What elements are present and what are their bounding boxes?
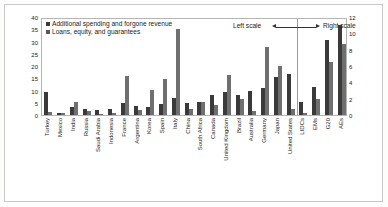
x-tick-label: South Africa (197, 118, 203, 150)
bar-loans (201, 102, 205, 115)
x-tick-label: Indonesia (108, 118, 114, 144)
legend-item-spending: Additional spending and forgone revenue (46, 20, 172, 28)
bar-loans (138, 110, 142, 115)
bar-loans (48, 112, 52, 115)
bar-loans (240, 99, 244, 115)
bar-loans (87, 111, 91, 115)
bar-loans (74, 102, 78, 115)
x-tick-label: Spain (159, 118, 165, 133)
x-tick-label: AEs (338, 118, 344, 129)
chart-legend: Additional spending and forgone revenue … (46, 20, 172, 36)
bar-loans (227, 75, 231, 115)
x-tick-label: EMs (312, 118, 318, 130)
y-axis-right: 121086420 (349, 18, 367, 116)
y-tick-label: 5 (24, 101, 38, 107)
x-tick-label: United Kingdom (223, 118, 229, 161)
x-tick-label: Canada (210, 118, 216, 139)
bar-loans (342, 44, 346, 115)
x-tick-label: United States (287, 118, 293, 154)
bar-loans (176, 29, 180, 115)
x-tick-label: Mexico (57, 118, 63, 137)
scale-arrow-line (276, 27, 316, 28)
bar-loans (214, 105, 218, 115)
y2-tick-label: 10 (349, 31, 365, 37)
x-tick-label: India (70, 118, 76, 131)
y-tick-label: 15 (24, 76, 38, 82)
legend-label-spending: Additional spending and forgone revenue (52, 20, 172, 28)
y-tick-label: 30 (24, 40, 38, 46)
x-tick-label: G20 (325, 118, 331, 129)
scale-annotations: Left scale Right scale (190, 22, 345, 34)
x-tick-label: France (121, 118, 127, 137)
right-arrow-icon (316, 24, 320, 28)
x-tick-label: Italy (172, 118, 178, 129)
bar-loans (150, 90, 154, 115)
x-tick-label: Turkey (44, 118, 50, 136)
chart-figure: 4035302520151050 121086420 Additional sp… (0, 0, 388, 207)
y-tick-label: 35 (24, 27, 38, 33)
bar-loans (99, 114, 103, 115)
x-tick-label: Germany (261, 118, 267, 143)
bar-loans (278, 66, 282, 115)
x-tick-label: Saudi Arabia (95, 118, 101, 152)
x-tick-label: Australia (248, 118, 254, 141)
bar-loans (112, 113, 116, 115)
bar-loans (265, 47, 269, 115)
y2-tick-label: 8 (349, 48, 365, 54)
y-tick-label: 10 (24, 89, 38, 95)
y2-tick-label: 6 (349, 64, 365, 70)
bar-loans (252, 111, 256, 115)
x-tick-label: China (185, 118, 191, 134)
bar-loans (163, 79, 167, 115)
bar-loans (189, 109, 193, 115)
y2-tick-label: 2 (349, 97, 365, 103)
x-tick-label: Japan (274, 118, 280, 134)
bar-loans (291, 109, 295, 115)
x-tick-label: Korea (146, 118, 152, 134)
legend-swatch-icon (46, 30, 50, 34)
x-axis-labels: TurkeyMexicoIndiaRussiaSaudi ArabiaIndon… (41, 118, 347, 180)
y-tick-label: 25 (24, 52, 38, 58)
bar-loans (316, 99, 320, 115)
x-tick-label: Brazil (236, 118, 242, 133)
y-tick-label: 20 (24, 64, 38, 70)
x-tick-label: Russia (83, 118, 89, 136)
bar-loans (329, 62, 333, 115)
y2-tick-label: 4 (349, 80, 365, 86)
x-tick-label: Argentina (134, 118, 140, 144)
y-tick-label: 0 (24, 113, 38, 119)
right-scale-label: Right scale (323, 22, 356, 29)
legend-swatch-icon (46, 22, 50, 26)
bar-loans (61, 113, 65, 115)
legend-label-loans: Loans, equity, and guarantees (52, 28, 140, 36)
y2-tick-label: 0 (349, 113, 365, 119)
y-axis-left: 4035302520151050 (22, 18, 38, 116)
bar-loans (303, 113, 307, 115)
y2-tick-label: 12 (349, 15, 365, 21)
y-tick-label: 40 (24, 15, 38, 21)
legend-item-loans: Loans, equity, and guarantees (46, 28, 172, 36)
left-scale-label: Left scale (233, 22, 261, 29)
bar-loans (125, 76, 129, 115)
x-tick-label: LIDCs (299, 118, 305, 135)
